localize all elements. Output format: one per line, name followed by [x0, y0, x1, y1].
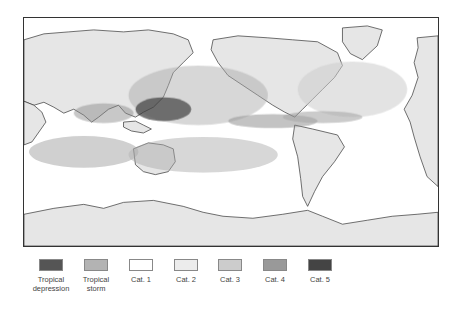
- legend-item-cat-4: Cat. 4: [250, 259, 300, 284]
- tracks-south-indian: [29, 136, 138, 168]
- legend-item-cat-1: Cat. 1: [116, 259, 166, 284]
- tracks-south-pacific: [128, 137, 277, 173]
- tracks-north-indian: [74, 103, 134, 123]
- legend-label: Tropicalstorm: [71, 275, 121, 293]
- legend-label: Cat. 3: [205, 275, 255, 284]
- legend-item-tropical-storm: Tropicalstorm: [71, 259, 121, 293]
- world-map: [23, 17, 439, 247]
- tracks-atlantic: [298, 62, 407, 118]
- legend-item-cat-3: Cat. 3: [205, 259, 255, 284]
- maritime-southeast-asia: [124, 121, 152, 133]
- swatch-cat-4: [263, 259, 287, 271]
- swatch-cat-1: [129, 259, 153, 271]
- legend-label: Cat. 5: [295, 275, 345, 284]
- cyclone-track-map: [24, 18, 438, 246]
- legend-label: Cat. 2: [161, 275, 211, 284]
- land-masses: [24, 26, 438, 246]
- greenland: [342, 26, 382, 60]
- swatch-tropical-storm: [84, 259, 108, 271]
- intensity-legend: Tropicaldepression Tropicalstorm Cat. 1 …: [0, 259, 460, 315]
- tracks-west-pacific-core: [135, 97, 191, 121]
- legend-item-tropical-depression: Tropicaldepression: [26, 259, 76, 293]
- south-america: [293, 125, 345, 206]
- legend-label: Cat. 4: [250, 275, 300, 284]
- legend-item-cat-2: Cat. 2: [161, 259, 211, 284]
- tracks-caribbean: [283, 111, 363, 123]
- legend-label: Cat. 1: [116, 275, 166, 284]
- swatch-cat-3: [218, 259, 242, 271]
- legend-item-cat-5: Cat. 5: [295, 259, 345, 284]
- swatch-cat-2: [174, 259, 198, 271]
- africa-east: [24, 101, 46, 145]
- europe-africa-west: [404, 36, 438, 187]
- swatch-cat-5: [308, 259, 332, 271]
- legend-label: Tropicaldepression: [26, 275, 76, 293]
- swatch-tropical-depression: [39, 259, 63, 271]
- antarctica: [24, 200, 438, 246]
